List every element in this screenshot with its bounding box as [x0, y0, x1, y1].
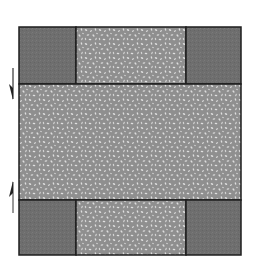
top-left-corner: [19, 27, 76, 84]
top-center-strip: [76, 27, 186, 84]
bottom-right-corner: [186, 200, 241, 255]
arrow-down-icon: [9, 68, 13, 100]
top-right-corner: [186, 27, 241, 84]
center-panel: [19, 84, 241, 200]
arrow-up-icon: [9, 181, 13, 213]
bottom-left-corner: [19, 200, 76, 255]
bottom-center-strip: [76, 200, 186, 255]
quilt-diagram: [0, 0, 256, 275]
